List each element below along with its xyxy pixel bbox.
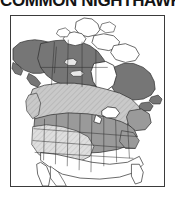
figure-title: COMMON NIGHTHAWK xyxy=(0,0,175,12)
range-map-figure: COMMON NIGHTHAWK xyxy=(0,0,175,201)
map-plate xyxy=(10,15,165,187)
north-america-range-map xyxy=(11,16,164,186)
